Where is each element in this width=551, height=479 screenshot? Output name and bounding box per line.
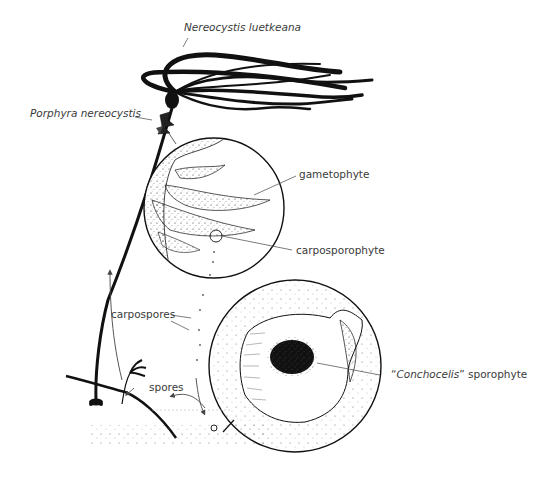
label-spores: spores xyxy=(149,382,184,393)
kelp-bulb xyxy=(165,91,179,109)
label-porphyra-nereocystis: Porphyra nereocystis xyxy=(30,108,141,119)
illustration-canvas xyxy=(0,0,551,479)
kelp-holdfast xyxy=(89,399,103,407)
arrow-carpospores-down xyxy=(196,378,204,413)
label-carpospores: carpospores xyxy=(111,309,175,320)
label-gametophyte: gametophyte xyxy=(299,169,369,180)
label-conchocelis-sporophyte: “Conchocelis” sporophyte xyxy=(391,369,527,380)
life-cycle-diagram: Nereocystis luetkeana Porphyra nereocyst… xyxy=(0,0,551,479)
label-nereocystis-luetkeana: Nereocystis luetkeana xyxy=(184,22,301,33)
gametophyte-magnified-circle xyxy=(140,131,284,278)
label-carposporophyte: carposporophyte xyxy=(296,245,385,256)
conchocelis-name: Conchocelis xyxy=(396,368,459,380)
sporophyte-suffix: sporophyte xyxy=(465,368,528,380)
